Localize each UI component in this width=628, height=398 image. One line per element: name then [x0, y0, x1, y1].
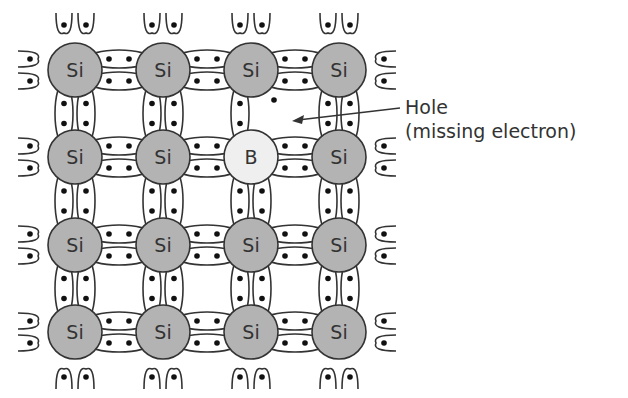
- silicon-atom: Si: [312, 130, 366, 184]
- edge-bond: [18, 226, 39, 242]
- electron-dot: [194, 253, 200, 259]
- electron-dot: [325, 276, 331, 282]
- electron-dot: [214, 253, 220, 259]
- electron-dot: [171, 121, 177, 127]
- electron-dot: [171, 276, 177, 282]
- atom-symbol: Si: [330, 321, 347, 343]
- atom-symbol: Si: [154, 234, 171, 256]
- electron-dot: [126, 143, 132, 149]
- electron-dot: [149, 276, 155, 282]
- electron-dot: [171, 188, 177, 194]
- electron-dot: [282, 318, 288, 324]
- electron-dot: [149, 188, 155, 194]
- electron-dot: [325, 374, 331, 380]
- electron-dot: [302, 318, 308, 324]
- electron-dot: [325, 101, 331, 107]
- electron-dot: [259, 276, 265, 282]
- electron-dot: [126, 56, 132, 62]
- edge-bond: [232, 368, 248, 389]
- electron-dot: [237, 121, 243, 127]
- electron-dot: [106, 56, 112, 62]
- electron-dot: [214, 318, 220, 324]
- electron-dot: [126, 231, 132, 237]
- electron-dot: [126, 78, 132, 84]
- electron-dot: [194, 340, 200, 346]
- edge-bond: [56, 368, 72, 389]
- electron-dot: [149, 101, 155, 107]
- electron-dot: [214, 56, 220, 62]
- electron-dot: [106, 143, 112, 149]
- electron-dot: [171, 374, 177, 380]
- electron-dot: [149, 22, 155, 28]
- electron-dot: [106, 165, 112, 171]
- edge-bond: [320, 13, 336, 34]
- hole-label-title: Hole: [405, 95, 576, 119]
- atom-symbol: Si: [66, 321, 83, 343]
- electron-dot: [83, 208, 89, 214]
- edge-bond: [375, 226, 396, 242]
- electron-dot: [106, 253, 112, 259]
- atom-symbol: Si: [66, 234, 83, 256]
- atom-symbol: Si: [154, 146, 171, 168]
- silicon-atom: Si: [48, 43, 102, 97]
- silicon-atom: Si: [136, 305, 190, 359]
- electron-dot: [83, 188, 89, 194]
- boron-atom: B: [224, 130, 278, 184]
- edge-bond: [78, 368, 94, 389]
- edge-bond: [375, 248, 396, 264]
- electron-dot: [83, 276, 89, 282]
- electron-dot: [126, 318, 132, 324]
- edge-bond: [166, 368, 182, 389]
- electron-dot: [237, 276, 243, 282]
- electron-dot: [237, 101, 243, 107]
- atom-symbol: Si: [330, 146, 347, 168]
- edge-bond: [144, 368, 160, 389]
- atom-symbol: Si: [66, 59, 83, 81]
- electron-dot: [282, 143, 288, 149]
- silicon-atom: Si: [224, 218, 278, 272]
- silicon-atom: Si: [136, 43, 190, 97]
- electron-dot: [171, 296, 177, 302]
- atom-symbol: Si: [154, 321, 171, 343]
- atom-symbol: Si: [242, 234, 259, 256]
- electron-dot: [61, 188, 67, 194]
- electron-dot: [347, 208, 353, 214]
- electron-dot: [149, 296, 155, 302]
- electron-dot: [83, 121, 89, 127]
- electron-dot: [325, 121, 331, 127]
- lone-electron-dot: [271, 97, 277, 103]
- electron-dot: [237, 22, 243, 28]
- electron-dot: [106, 78, 112, 84]
- edge-bond: [375, 138, 396, 154]
- edge-bond: [254, 13, 270, 34]
- electron-dot: [237, 374, 243, 380]
- electron-dot: [302, 143, 308, 149]
- electron-dot: [347, 121, 353, 127]
- electron-dot: [347, 374, 353, 380]
- atom-symbol: Si: [66, 146, 83, 168]
- atom-symbol: Si: [330, 234, 347, 256]
- electron-dot: [302, 165, 308, 171]
- electron-dot: [381, 78, 387, 84]
- electron-dot: [27, 143, 33, 149]
- edge-bond: [232, 13, 248, 34]
- electron-dot: [381, 165, 387, 171]
- edge-bond: [320, 368, 336, 389]
- electron-dot: [282, 78, 288, 84]
- electron-dot: [214, 165, 220, 171]
- electron-dot: [149, 374, 155, 380]
- silicon-atom: Si: [48, 305, 102, 359]
- electron-dot: [171, 101, 177, 107]
- electron-dot: [347, 22, 353, 28]
- atom-symbol: B: [244, 146, 257, 168]
- electron-dot: [194, 56, 200, 62]
- electron-dot: [27, 78, 33, 84]
- atom-symbol: Si: [154, 59, 171, 81]
- edge-bond: [375, 335, 396, 351]
- electron-dot: [106, 340, 112, 346]
- electron-dot: [61, 22, 67, 28]
- electron-dot: [237, 188, 243, 194]
- electron-dot: [149, 208, 155, 214]
- arrow-head-icon: [292, 115, 304, 124]
- electron-dot: [27, 56, 33, 62]
